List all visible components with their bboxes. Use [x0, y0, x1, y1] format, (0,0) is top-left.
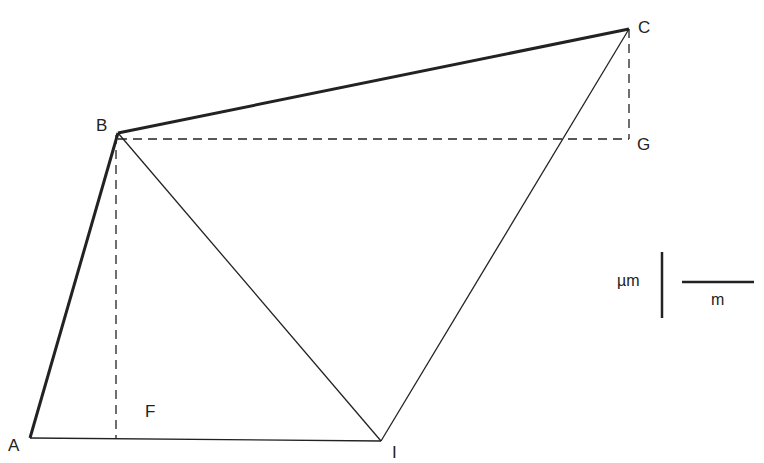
segment-ai	[30, 438, 381, 441]
diagram-lines	[0, 0, 764, 463]
label-b: B	[96, 117, 107, 134]
label-g: G	[637, 136, 650, 153]
label-i: I	[392, 444, 397, 461]
label-a: A	[8, 437, 19, 454]
unit-numerator: µm	[617, 273, 640, 289]
segment-bc	[118, 29, 629, 133]
geometry-diagram: A B C G F I µm m	[0, 0, 764, 463]
label-f: F	[145, 403, 155, 420]
segment-ci	[381, 29, 629, 441]
segment-bi	[118, 133, 381, 441]
segment-ab	[30, 133, 118, 438]
label-c: C	[638, 19, 650, 36]
unit-denominator: m	[711, 292, 724, 308]
